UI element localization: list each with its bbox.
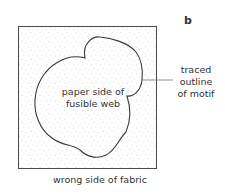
shape-label: paper side of fusible web: [58, 86, 128, 110]
leader-label: traced outline of motif: [172, 64, 220, 100]
leader-label-line1: traced: [172, 64, 220, 76]
leader-label-line2: outline: [172, 76, 220, 88]
rectangle-label: wrong side of fabric: [40, 174, 160, 186]
shape-label-line1: paper side of: [58, 86, 128, 98]
panel-label: b: [184, 15, 192, 27]
leader-label-line3: of motif: [172, 88, 220, 100]
shape-label-line2: fusible web: [58, 98, 128, 110]
